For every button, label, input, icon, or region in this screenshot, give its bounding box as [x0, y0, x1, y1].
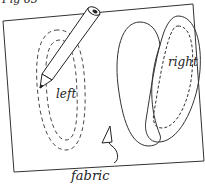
pattern-tracing-diagram: left right fabric: [0, 0, 205, 189]
label-right: right: [168, 55, 198, 69]
label-fabric: fabric: [70, 168, 110, 183]
label-left: left: [56, 87, 76, 101]
